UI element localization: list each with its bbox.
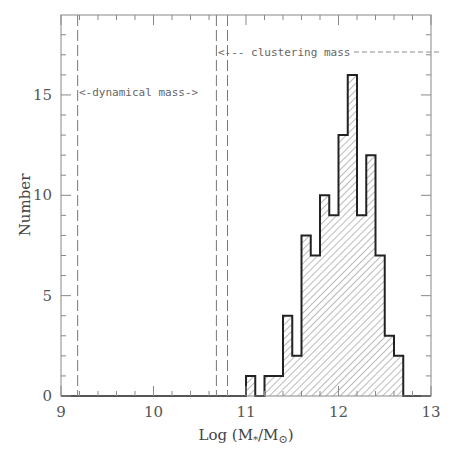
clustering-mass-annotation: <--- clustering mass [218,46,350,59]
y-tick-label: 15 [33,86,52,104]
histogram-bin [311,256,320,396]
histogram-bin [265,376,274,396]
histogram-bin [292,356,301,396]
x-tick-label: 12 [329,403,348,421]
histogram-bin [246,376,255,396]
x-tick-label: 13 [421,403,440,421]
histogram-bin [385,336,394,396]
histogram-bin [348,75,357,396]
y-tick-label: 10 [33,186,52,204]
mass-limit-lines [78,15,228,396]
histogram-bin [320,195,329,396]
histogram-bin [329,215,338,396]
histogram-bin [274,376,283,396]
x-tick-label: 11 [236,403,255,421]
histogram-chart: 910111213051015 <-dynamical mass-> <--- … [0,0,453,455]
histogram-bin [339,135,348,396]
x-axis-title: Log (M*/M⊙) [198,426,293,446]
x-tick-label: 10 [144,403,163,421]
histogram-bin [357,215,366,396]
y-tick-label: 5 [42,287,52,305]
x-tick-label: 9 [56,403,66,421]
y-axis-title: Number [16,173,34,236]
dynamical-mass-annotation: <-dynamical mass-> [79,86,199,99]
histogram-bin [376,256,385,396]
histogram-bin [394,356,403,396]
histogram-bars [61,75,431,396]
histogram-bin [283,316,292,396]
histogram-bin [302,235,311,396]
histogram-bin [366,155,375,396]
y-tick-label: 0 [42,387,52,405]
